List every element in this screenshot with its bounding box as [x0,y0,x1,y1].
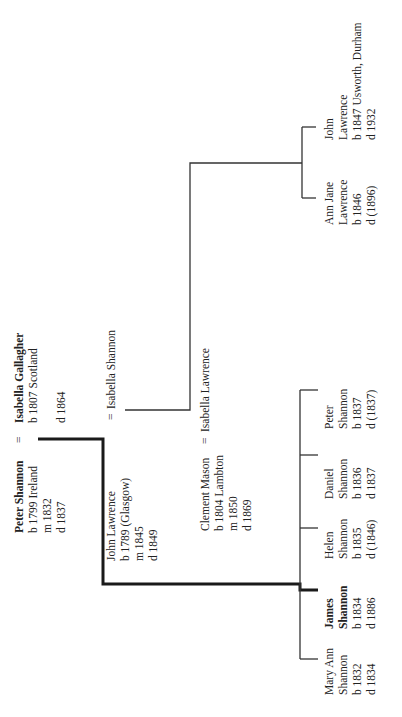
child-first-name: Ann Jane [322,180,336,225]
child-death: d 1837 [364,459,378,499]
child-daniel-shannon: Daniel Shannon b 1836 d 1837 [322,459,378,499]
person-name: John Lawrence [104,478,118,561]
child-james-shannon: James Shannon b 1834 d 1886 [322,586,378,629]
person-clement-mason: Clement Mason b 1804 Lambton m 1850 d 18… [198,455,254,531]
person-name: Isabella Gallagher [12,333,26,423]
person-death: d 1864 [54,333,68,423]
child-birth: b 1846 [350,180,364,225]
child-first-name: Peter [322,389,336,429]
family-tree-diagram: Peter Shannon b 1799 Ireland m 1832 d 18… [0,0,402,717]
person-death: d 1869 [240,455,254,531]
child-last-name: Shannon [336,648,350,695]
child-first-name: Helen [322,519,336,559]
child-last-name: Shannon [336,389,350,429]
marriage-symbol: = [12,437,26,444]
child-helen-shannon: Helen Shannon b 1835 d (1846) [322,519,378,559]
lawrence-descent-line [125,163,302,410]
child-death: d 1834 [364,648,378,695]
child-birth: b 1832 [350,648,364,695]
child-mary-ann-shannon: Mary Ann Shannon b 1832 d 1834 [322,648,378,695]
person-isabella-shannon: Isabella Shannon [104,330,118,409]
person-marriage: m 1832 [40,461,54,533]
person-birth: b 1789 (Glasgow) [118,478,132,561]
child-first-name: Mary Ann [322,648,336,695]
person-john-lawrence: John Lawrence b 1789 (Glasgow) m 1845 d … [104,478,160,561]
child-first-name: Daniel [322,459,336,499]
child-birth: b 1837 [350,389,364,429]
child-death: d 1886 [364,586,378,629]
child-death: d (1837) [364,389,378,429]
child-ann-jane-lawrence: Ann Jane Lawrence b 1846 d (1896) [322,180,378,225]
child-john-lawrence: John Lawrence b 1847 Usworth, Durham d 1… [322,22,378,140]
child-death: d (1896) [364,180,378,225]
child-birth: b 1834 [350,586,364,629]
child-peter-shannon: Peter Shannon b 1837 d (1837) [322,389,378,429]
child-birth: b 1836 [350,459,364,499]
person-name: Isabella Shannon [104,330,118,409]
child-last-name: Lawrence [336,180,350,225]
child-birth: b 1847 Usworth, Durham [350,22,364,140]
child-first-name: John [322,22,336,140]
child-death: d (1846) [364,519,378,559]
person-marriage: m 1845 [132,478,146,561]
person-isabella-lawrence: Isabella Lawrence [198,348,212,432]
child-last-name: Shannon [336,519,350,559]
shannon-descent-line [38,439,318,590]
child-last-name: Lawrence [336,22,350,140]
person-name: Peter Shannon [12,461,26,533]
spacer [40,333,54,423]
person-death: d 1849 [146,478,160,561]
person-birth: b 1804 Lambton [212,455,226,531]
person-peter-shannon: Peter Shannon b 1799 Ireland m 1832 d 18… [12,461,68,533]
person-isabella-gallagher: Isabella Gallagher b 1807 Scotland d 186… [12,333,68,423]
marriage-symbol: = [198,438,212,445]
person-death: d 1837 [54,461,68,533]
child-birth: b 1835 [350,519,364,559]
person-birth: b 1799 Ireland [26,461,40,533]
child-last-name: Shannon [336,586,350,629]
marriage-symbol: = [104,414,118,421]
person-birth: b 1807 Scotland [26,333,40,423]
child-last-name: Shannon [336,459,350,499]
person-name: Isabella Lawrence [198,348,212,432]
child-death: d 1932 [364,22,378,140]
person-name: Clement Mason [198,455,212,531]
person-marriage: m 1850 [226,455,240,531]
child-first-name: James [322,586,336,629]
